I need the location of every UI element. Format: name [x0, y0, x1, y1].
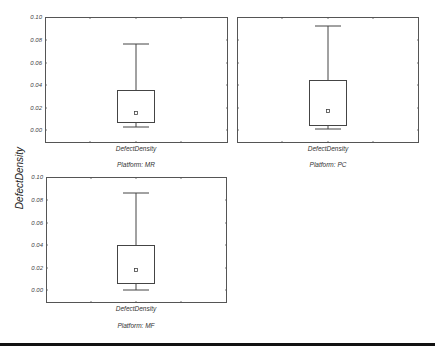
bottom-rule: [0, 343, 435, 346]
y-ticks: 0.10 0.08 0.06 0.04 0.02 0.00: [30, 14, 42, 133]
svg-text:0.10: 0.10: [30, 14, 42, 20]
svg-text:0.08: 0.08: [30, 37, 42, 43]
panel-title: Platform: PC: [310, 161, 347, 168]
svg-text:0.06: 0.06: [30, 60, 42, 66]
panel-title: Platform: MF: [117, 322, 155, 329]
svg-text:0.02: 0.02: [31, 265, 43, 271]
panel-pc: DefectDensity Platform: PC: [237, 17, 419, 168]
x-axis-label: DefectDensity: [308, 145, 349, 153]
svg-text:0.00: 0.00: [30, 127, 42, 133]
svg-text:0.04: 0.04: [31, 242, 43, 248]
box-mf: [118, 193, 155, 290]
svg-text:0.04: 0.04: [30, 82, 42, 88]
svg-text:0.08: 0.08: [31, 197, 43, 203]
y-ticks: 0.10 0.08 0.06 0.04 0.02 0.00: [31, 174, 43, 293]
svg-text:0.02: 0.02: [30, 105, 42, 111]
svg-text:0.10: 0.10: [31, 174, 43, 180]
panel-mr: 0.10 0.08 0.06 0.04 0.02 0.00 DefectDens…: [30, 14, 228, 168]
boxplot-figure: DefectDensity 0.10 0.08 0.06 0.04 0.02 0…: [0, 0, 435, 355]
svg-text:0.00: 0.00: [31, 287, 43, 293]
x-axis-label: DefectDensity: [116, 305, 157, 313]
x-axis-label: DefectDensity: [116, 145, 157, 153]
y-axis-label: DefectDensity: [14, 146, 25, 209]
box-mr: [118, 44, 155, 127]
panel-title: Platform: MR: [117, 161, 155, 168]
panel-mf: 0.10 0.08 0.06 0.04 0.02 0.00 DefectDens…: [31, 174, 227, 329]
box-pc: [310, 26, 347, 129]
svg-text:0.06: 0.06: [31, 220, 43, 226]
